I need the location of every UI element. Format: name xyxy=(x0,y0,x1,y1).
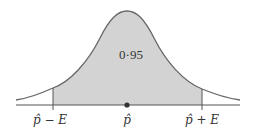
confidence-interval-diagram: 0·95 p̂ − E p̂ p̂ + E xyxy=(0,0,256,131)
center-label: p̂ xyxy=(123,113,131,127)
area-label: 0·95 xyxy=(119,47,143,62)
center-point xyxy=(124,102,129,107)
upper-bound-label: p̂ + E xyxy=(185,113,219,127)
lower-bound-label: p̂ − E xyxy=(33,113,67,127)
